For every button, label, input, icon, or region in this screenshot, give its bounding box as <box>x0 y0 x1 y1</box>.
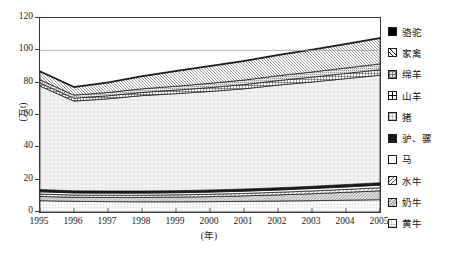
legend-item-绵羊[interactable]: 绵羊 <box>388 64 450 85</box>
legend-item-奶牛[interactable]: 奶牛 <box>388 191 450 212</box>
legend-item-驴、骡[interactable]: 驴、骡 <box>388 127 450 148</box>
legend-swatch-icon <box>388 219 397 228</box>
y-tick-label: 100 <box>2 44 33 53</box>
legend-item-水牛[interactable]: 水牛 <box>388 170 450 191</box>
legend-swatch-icon <box>388 91 397 100</box>
chart-legend: 骆驼家禽绵羊山羊猪驴、骡马水牛奶牛黄牛 <box>388 21 450 234</box>
legend-swatch-icon <box>388 70 397 79</box>
legend-item-骆驼[interactable]: 骆驼 <box>388 21 450 42</box>
stacked-area-plot <box>40 18 380 212</box>
chart-root: 120100806040200 (万t) <box>0 0 452 266</box>
legend-item-label: 马 <box>402 152 412 166</box>
legend-item-山羊[interactable]: 山羊 <box>388 85 450 106</box>
legend-item-label: 家禽 <box>402 46 422 60</box>
legend-item-label: 山羊 <box>402 89 422 103</box>
legend-item-label: 驴、骡 <box>402 131 432 145</box>
legend-swatch-icon <box>388 48 397 57</box>
legend-swatch-icon <box>388 176 397 185</box>
legend-item-label: 骆驼 <box>402 25 422 39</box>
legend-swatch-icon <box>388 112 397 121</box>
x-axis-title: (年) <box>184 228 234 242</box>
plot-area <box>39 17 381 213</box>
y-axis-title: (万t) <box>15 82 29 142</box>
legend-item-label: 黄牛 <box>402 216 422 230</box>
y-tick-label: 0 <box>2 206 33 215</box>
legend-item-label: 奶牛 <box>402 195 422 209</box>
legend-item-马[interactable]: 马 <box>388 149 450 170</box>
legend-swatch-icon <box>388 134 397 143</box>
y-tick-label: 120 <box>2 12 33 21</box>
legend-item-label: 猪 <box>402 110 412 124</box>
legend-swatch-icon <box>388 198 397 207</box>
legend-item-黄牛[interactable]: 黄牛 <box>388 213 450 234</box>
legend-item-家禽[interactable]: 家禽 <box>388 42 450 63</box>
legend-swatch-icon <box>388 27 397 36</box>
y-tick-label: 40 <box>2 141 33 150</box>
legend-swatch-icon <box>388 155 397 164</box>
y-tick-label: 20 <box>2 174 33 183</box>
legend-item-猪[interactable]: 猪 <box>388 106 450 127</box>
legend-item-label: 绵羊 <box>402 67 422 81</box>
legend-item-label: 水牛 <box>402 174 422 188</box>
